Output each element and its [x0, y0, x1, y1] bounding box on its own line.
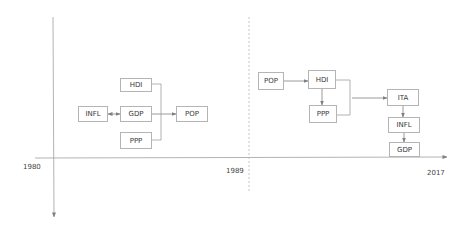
diagram-lines: [0, 0, 471, 228]
year-label-1980: 1980: [23, 163, 41, 171]
node-gdp-1989: GDP: [389, 142, 420, 157]
node-ppp-1980: PPP: [120, 132, 152, 149]
node-gdp-1980: GDP: [120, 106, 152, 122]
node-hdi-1980: HDI: [120, 78, 152, 92]
node-infl-1980: INFL: [78, 106, 108, 122]
node-pop-1980: POP: [176, 106, 208, 122]
node-pop-1989: POP: [258, 72, 284, 90]
year-label-1989: 1989: [226, 167, 244, 175]
node-ppp-1989: PPP: [309, 105, 337, 123]
node-infl-1989: INFL: [388, 117, 420, 133]
causal-timeline-diagram: HDI INFL GDP POP PPP POP HDI PPP ITA INF…: [0, 0, 471, 228]
node-hdi-1989: HDI: [308, 70, 336, 89]
vertical-axis: [53, 17, 54, 217]
node-ita-1989: ITA: [387, 89, 419, 106]
time-axis: [35, 157, 447, 158]
year-label-2017: 2017: [427, 169, 445, 177]
